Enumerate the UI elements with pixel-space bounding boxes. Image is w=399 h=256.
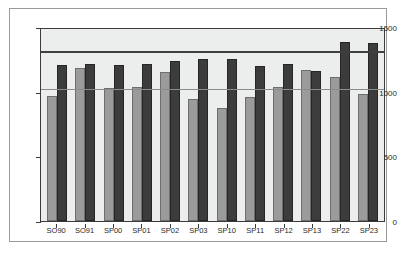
bar-container xyxy=(41,29,384,221)
bar-group xyxy=(71,29,99,221)
x-tick-mark xyxy=(113,224,114,228)
bar xyxy=(188,99,198,221)
bar xyxy=(330,77,340,221)
bar xyxy=(217,108,227,221)
bar-group xyxy=(297,29,325,221)
bar xyxy=(75,68,85,221)
x-tick-mark xyxy=(56,224,57,228)
y-tick-mark xyxy=(36,222,41,223)
x-tick-mark xyxy=(284,224,285,228)
x-tick-mark xyxy=(85,224,86,228)
bar xyxy=(368,43,378,221)
bar xyxy=(227,59,237,221)
bar-group xyxy=(128,29,156,221)
bar-group xyxy=(326,29,354,221)
bar-group xyxy=(269,29,297,221)
bar xyxy=(132,87,142,222)
bar xyxy=(283,64,293,221)
x-tick-mark xyxy=(340,224,341,228)
x-tick-mark xyxy=(255,224,256,228)
plot-area xyxy=(40,28,385,222)
y-tick-label: 500 xyxy=(365,153,399,162)
x-tick-mark xyxy=(141,224,142,228)
bar-group xyxy=(100,29,128,221)
bar xyxy=(245,97,255,221)
bar-group xyxy=(156,29,184,221)
y-tick-label: 1000 xyxy=(365,88,399,97)
bar-group xyxy=(43,29,71,221)
bar-group xyxy=(184,29,212,221)
y-tick-mark xyxy=(36,93,41,94)
bar xyxy=(85,64,95,221)
bar-group xyxy=(241,29,269,221)
bar xyxy=(198,59,208,221)
bar xyxy=(273,87,283,222)
y-tick-mark xyxy=(36,157,41,158)
y-tick-label: 0 xyxy=(365,218,399,227)
chart-figure: SO90SO91SP00SP01SP02SP03SP10SP11SP12SP13… xyxy=(0,0,399,256)
x-tick-mark xyxy=(227,224,228,228)
bar xyxy=(170,61,180,221)
y-tick-mark xyxy=(36,28,41,29)
bar xyxy=(160,72,170,221)
x-tick-mark xyxy=(170,224,171,228)
bar xyxy=(47,96,57,221)
x-tick-mark xyxy=(312,224,313,228)
bar xyxy=(114,65,124,221)
lower-reference-line xyxy=(41,89,384,90)
bar xyxy=(104,88,114,221)
bar xyxy=(340,42,350,221)
bar-group xyxy=(213,29,241,221)
bar-group xyxy=(354,29,382,221)
y-tick-label: 1500 xyxy=(365,24,399,33)
bar xyxy=(311,71,321,221)
bar xyxy=(301,70,311,221)
y-axis xyxy=(0,0,40,256)
bar xyxy=(142,64,152,221)
x-tick-mark xyxy=(198,224,199,228)
upper-reference-line xyxy=(41,51,384,53)
x-axis-labels: SO90SO91SP00SP01SP02SP03SP10SP11SP12SP13… xyxy=(40,224,385,240)
